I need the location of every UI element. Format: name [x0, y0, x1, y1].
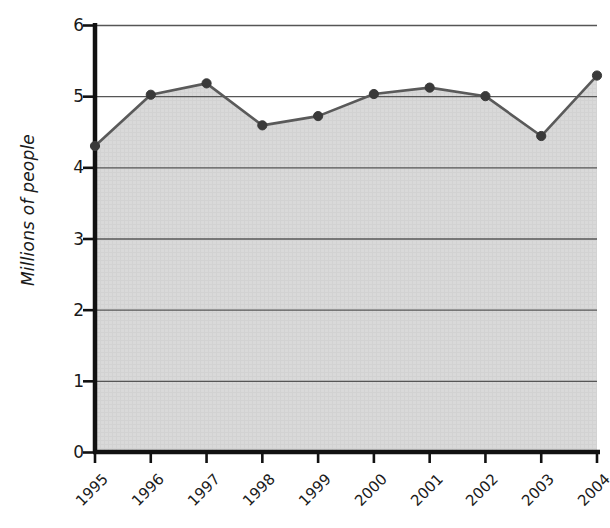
data-point-marker — [90, 141, 99, 150]
data-point-marker — [202, 79, 211, 88]
data-point-marker — [314, 111, 323, 120]
data-point-marker — [481, 92, 490, 101]
chart-plot-svg — [0, 0, 610, 528]
area-fill — [95, 76, 597, 452]
data-point-marker — [258, 121, 267, 130]
area-path — [95, 76, 597, 452]
data-point-marker — [146, 90, 155, 99]
data-point-marker — [537, 131, 546, 140]
data-point-marker — [425, 83, 434, 92]
chart-container: Millions of people 0123456 1995199619971… — [0, 0, 610, 528]
data-point-marker — [592, 71, 601, 80]
data-point-marker — [369, 89, 378, 98]
